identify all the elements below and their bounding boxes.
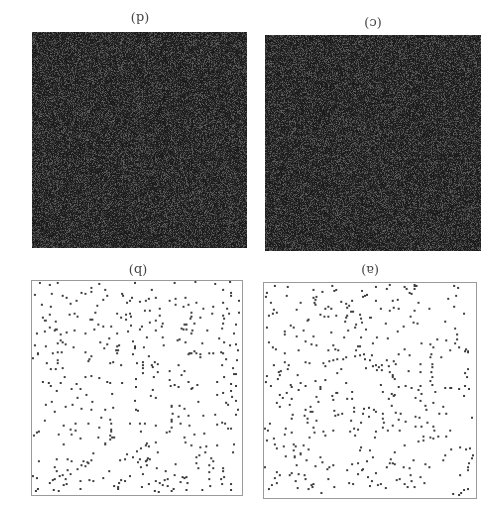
panel-b-scatter: [31, 280, 243, 496]
figure: (a) (b) (c) (d): [0, 0, 501, 518]
panel-a-scatter: [263, 282, 477, 499]
panel-b-label: (b): [108, 263, 168, 278]
panel-a-label: (a): [340, 263, 400, 278]
noise-image-d: [32, 32, 247, 248]
scatter-plot-a: [264, 283, 476, 498]
panel-c-noise: [265, 35, 481, 251]
scatter-plot-b: [32, 281, 242, 495]
noise-image-c: [265, 35, 481, 251]
panel-d-label: (d): [110, 11, 170, 26]
panel-c-label: (c): [343, 16, 403, 31]
panel-d-noise: [32, 32, 247, 248]
